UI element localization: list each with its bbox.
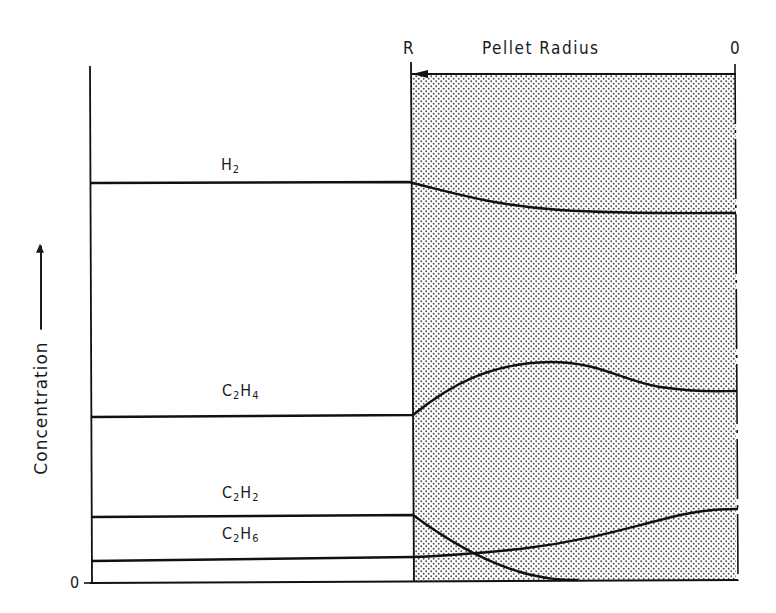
c2h6-label: C2H6 [222,524,259,545]
figure-canvas [0,0,776,613]
radius-axis-title: Pellet Radius [482,38,600,58]
radius-r-label: R [403,38,415,58]
h2-label: H2 [221,155,240,176]
c2h2-label: C2H2 [222,483,259,504]
y-zero-label: 0 [70,573,80,592]
y-axis-title: Concentration [31,341,51,474]
up-arrow-icon [40,245,42,329]
c2h4-label: C2H4 [222,381,259,402]
concentration-profile-figure: R Pellet Radius 0 Concentration 0 H2 C2H… [0,0,776,613]
pellet-shaded-region [412,74,736,581]
radius-zero-label: 0 [730,38,741,58]
y-axis [90,66,92,584]
y-axis-label: Concentration [31,245,51,474]
